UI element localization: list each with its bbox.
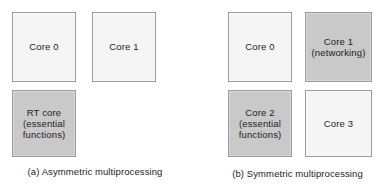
core-box-label: Core 3 — [322, 118, 355, 129]
panel-caption-symmetric: (b) Symmetric multiprocessing — [206, 168, 389, 179]
core-box-label: Core 0 — [27, 41, 60, 52]
core-box-symmetric-core-1: Core 1 (networking) — [305, 12, 372, 82]
core-box-label: Core 2 (essential functions) — [237, 107, 284, 141]
core-box-asymmetric-rt-core: RT core (essential functions) — [12, 90, 76, 157]
figure-multiprocessing: Core 0 Core 1 RT core (essential functio… — [0, 0, 389, 188]
core-box-label: Core 0 — [243, 41, 276, 52]
panel-caption-asymmetric: (a) Asymmetric multiprocessing — [0, 166, 190, 177]
panel-asymmetric-multiprocessing: Core 0 Core 1 RT core (essential functio… — [0, 0, 194, 188]
core-box-asymmetric-core-1: Core 1 — [92, 12, 156, 82]
core-box-label: Core 1 (networking) — [309, 36, 367, 58]
core-box-symmetric-core-0: Core 0 — [228, 12, 292, 82]
core-box-symmetric-core-2: Core 2 (essential functions) — [228, 90, 292, 157]
core-box-symmetric-core-3: Core 3 — [305, 90, 372, 157]
core-box-label: Core 1 — [107, 41, 140, 52]
core-box-label: RT core (essential functions) — [21, 107, 68, 141]
core-box-asymmetric-core-0: Core 0 — [12, 12, 76, 82]
panel-symmetric-multiprocessing: Core 0 Core 1 (networking) Core 2 (essen… — [194, 0, 389, 188]
